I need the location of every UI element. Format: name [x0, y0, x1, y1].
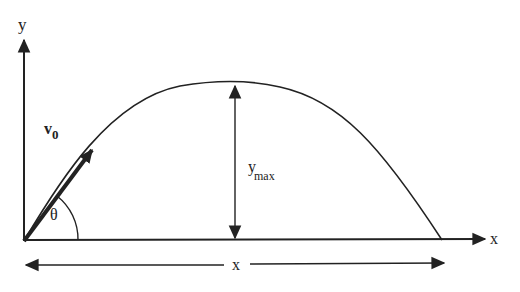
y-axis: y: [18, 15, 27, 241]
y-axis-label: y: [18, 15, 27, 34]
max-height-indicator: ymax: [235, 86, 275, 238]
x-axis: x: [24, 230, 498, 247]
max-height-label: ymax: [248, 158, 275, 183]
angle-label: θ: [50, 206, 58, 223]
range-label: x: [232, 256, 240, 273]
x-axis-label: x: [490, 230, 498, 247]
trajectory-curve: [24, 82, 442, 241]
velocity-label: v0: [44, 120, 59, 142]
projectile-motion-diagram: y x v0 θ ymax x: [0, 0, 520, 292]
range-indicator: x: [26, 256, 444, 273]
